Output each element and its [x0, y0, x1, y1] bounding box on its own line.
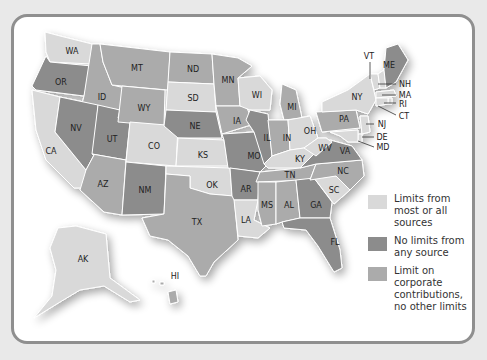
label-nh: NH [399, 80, 411, 89]
label-ri: RI [399, 100, 407, 109]
legend-swatch-no-limits [368, 237, 387, 251]
label-va: VA [340, 147, 351, 156]
label-me: ME [383, 61, 395, 70]
state-nj[interactable] [360, 116, 370, 134]
legend-swatch-corporate [368, 267, 387, 281]
legend-item-limits: Limits from most or all sources [368, 193, 478, 229]
label-ar: AR [240, 185, 251, 194]
label-pa: PA [339, 115, 349, 124]
label-az: AZ [98, 180, 109, 189]
state-md[interactable] [330, 130, 358, 142]
state-pa[interactable] [316, 110, 360, 132]
label-ia: IA [233, 117, 241, 126]
label-nc: NC [337, 167, 349, 176]
label-mo: MO [247, 152, 260, 161]
label-id: ID [98, 93, 107, 102]
legend-item-no-limits: No limits from any source [368, 235, 478, 259]
label-nd: ND [187, 65, 199, 74]
label-al: AL [284, 201, 294, 210]
label-ct: CT [399, 112, 410, 121]
label-ok: OK [206, 181, 218, 190]
label-wy: WY [138, 104, 151, 113]
label-sc: SC [329, 186, 340, 195]
label-ny: NY [352, 93, 363, 102]
legend-swatch-limits [368, 195, 387, 209]
label-la: LA [241, 216, 252, 225]
label-ak: AK [78, 255, 89, 264]
state-hi-2[interactable] [152, 280, 155, 283]
label-ks: KS [198, 151, 208, 160]
label-md: MD [376, 143, 389, 152]
label-or: OR [55, 78, 67, 87]
leader-md [358, 141, 374, 147]
label-vt: VT [364, 52, 374, 61]
label-co: CO [148, 142, 160, 151]
state-hi[interactable] [160, 282, 164, 285]
label-ga: GA [310, 201, 322, 210]
label-ut: UT [107, 135, 118, 144]
label-ms: MS [261, 201, 273, 210]
state-ak[interactable] [34, 226, 140, 318]
leader-ct [378, 106, 396, 115]
legend-label-no-limits: No limits from any source [394, 235, 478, 259]
label-il: IL [264, 134, 271, 143]
label-ky: KY [295, 155, 305, 164]
label-hi: HI [171, 272, 179, 281]
label-mi: MI [287, 103, 296, 112]
label-wi: WI [252, 91, 262, 100]
label-ma: MA [399, 91, 412, 100]
label-fl: FL [330, 238, 340, 247]
label-ne: NE [189, 122, 200, 131]
label-sd: SD [187, 94, 198, 103]
label-tn: TN [284, 171, 296, 180]
label-nm: NM [139, 186, 152, 195]
label-de: DE [376, 133, 387, 142]
label-tx: TX [191, 218, 203, 227]
label-in: IN [283, 134, 291, 143]
legend-label-limits: Limits from most or all sources [394, 193, 478, 229]
label-mn: MN [222, 76, 235, 85]
state-ny[interactable] [322, 74, 376, 114]
label-oh: OH [304, 127, 316, 136]
label-wa: WA [66, 47, 79, 56]
state-ct[interactable] [376, 98, 388, 106]
label-wv: WV [318, 144, 332, 153]
state-hi-3[interactable] [168, 290, 178, 304]
legend: Limits from most or all sources No limit… [368, 193, 478, 319]
state-ma[interactable] [376, 90, 396, 98]
label-mt: MT [131, 64, 143, 73]
label-nj: NJ [378, 120, 386, 129]
legend-item-corporate: Limit on corporate contributions, no oth… [368, 265, 478, 313]
label-nv: NV [70, 124, 82, 133]
legend-label-corporate: Limit on corporate contributions, no oth… [394, 265, 478, 313]
label-ca: CA [45, 147, 57, 156]
